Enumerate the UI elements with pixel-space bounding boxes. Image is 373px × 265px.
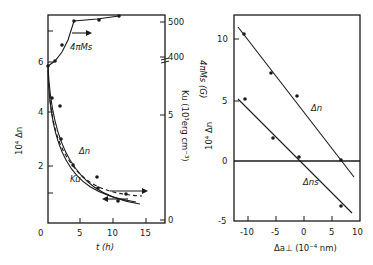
y-tick-label: 10: [217, 34, 228, 44]
x-tick-label: 5: [77, 228, 82, 238]
dns-label: Δns: [302, 177, 319, 187]
y-tick-label: 2: [38, 161, 43, 171]
x-tick-label: 15: [140, 228, 151, 238]
dn-fit-line: [238, 27, 354, 177]
x-axis-label: Δa⊥ (10⁻⁴ nm): [274, 243, 337, 253]
ms-curve: [48, 16, 119, 66]
y-tick-label: 6: [38, 57, 43, 67]
left-chart: 6 4 2 500 400 5 0 0 5 10 15 t (h) 10⁴ Δn…: [14, 14, 208, 252]
x-tick-label: 0: [301, 227, 306, 237]
ku-label: Ku: [70, 174, 81, 184]
right-axis-label-upper: 4πMs (G): [198, 60, 208, 98]
dns-fit-line: [238, 99, 352, 213]
x-tick-label: -5: [271, 227, 279, 237]
right-axis-label-lower: Ku (10³erg cm⁻³): [180, 90, 190, 162]
dn-curve: [48, 66, 140, 204]
right-tick-label: 400: [168, 52, 184, 62]
left-plot-frame: [48, 15, 165, 223]
y-tick-label: 5: [222, 96, 227, 106]
x-tick-label: 5: [329, 227, 334, 237]
y-tick-label: -5: [218, 216, 226, 226]
x-tick-label: -10: [240, 227, 254, 237]
x-axis-label: t (h): [96, 242, 114, 252]
arrow-right-icon: [142, 188, 148, 194]
arrow-left-icon: [102, 196, 108, 202]
right-chart: 10 5 0 -5 -10 -5 0 5 10 Δa⊥ (10⁻⁴ nm) 10…: [204, 15, 363, 253]
x-tick-label: 10: [352, 227, 363, 237]
arrow-right-icon: [86, 30, 92, 36]
y-tick-label: 4: [38, 107, 43, 117]
ms-label: 4πMs: [70, 42, 93, 52]
right-tick-label: 5: [168, 110, 173, 120]
ku-curve: [48, 70, 136, 202]
x-tick-label: 0: [38, 228, 43, 238]
y-axis-label: 10⁴ Δn: [14, 127, 24, 155]
dn-label: Δn: [310, 103, 322, 113]
y-axis-label: 10⁴ Δn: [204, 122, 214, 150]
y-tick-label: 0: [222, 156, 227, 166]
x-tick-label: 10: [107, 228, 118, 238]
figure: 6 4 2 500 400 5 0 0 5 10 15 t (h) 10⁴ Δn…: [0, 0, 373, 265]
right-tick-label: 0: [168, 215, 173, 225]
dn-label: Δn: [78, 146, 90, 156]
right-tick-label: 500: [168, 17, 184, 27]
